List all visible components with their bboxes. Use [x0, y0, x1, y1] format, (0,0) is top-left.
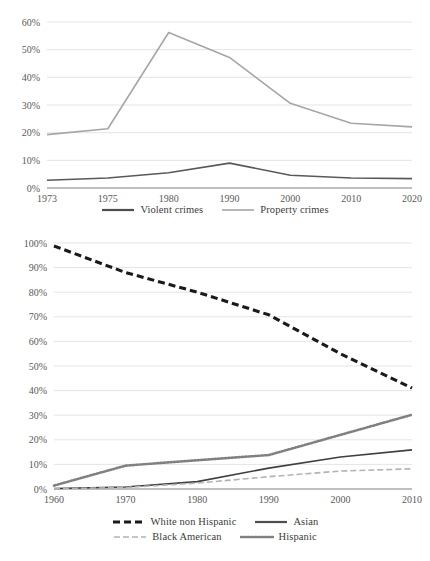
legend-swatch-icon — [221, 205, 255, 215]
x-axis-tick-label: 1960 — [44, 494, 64, 505]
y-axis-tick-label: 70% — [29, 311, 47, 322]
x-axis-tick-label: 1980 — [187, 494, 207, 505]
y-axis-tick-label: 10% — [29, 459, 47, 470]
demographics-plot: 0%10%20%30%40%50%60%70%80%90%100%1960197… — [0, 228, 430, 516]
demographics-legend: White non HispanicAsian Black AmericanHi… — [0, 514, 430, 544]
figure-page: 0%10%20%30%40%50%60%19731975198019902000… — [0, 0, 430, 561]
crime-rates-chart: 0%10%20%30%40%50%60%19731975198019902000… — [0, 0, 430, 230]
series-line — [47, 33, 412, 135]
y-axis-tick-label: 60% — [22, 17, 40, 28]
legend-label: Black American — [152, 529, 221, 544]
legend-label: Asian — [293, 514, 318, 529]
legend-swatch-icon — [112, 517, 146, 527]
y-axis-tick-label: 80% — [29, 287, 47, 298]
legend-item[interactable]: White non Hispanic — [112, 514, 237, 529]
y-axis-tick-label: 20% — [29, 434, 47, 445]
y-axis-tick-label: 10% — [22, 155, 40, 166]
legend-swatch-icon — [240, 532, 274, 542]
x-axis-tick-label: 1990 — [259, 494, 279, 505]
y-axis-tick-label: 30% — [22, 100, 40, 111]
crime-rates-legend: Violent crimesProperty crimes — [0, 202, 430, 217]
legend-item[interactable]: Asian — [254, 514, 318, 529]
legend-label: Hispanic — [279, 529, 317, 544]
y-axis-tick-label: 100% — [24, 238, 47, 249]
legend-swatch-icon — [113, 532, 147, 542]
x-axis-tick-label: 2010 — [402, 494, 422, 505]
x-axis-tick-label: 2000 — [330, 494, 350, 505]
legend-swatch-icon — [254, 517, 288, 527]
y-axis-tick-label: 50% — [29, 361, 47, 372]
legend-item[interactable]: Violent crimes — [101, 202, 203, 217]
x-axis-tick-label: 1970 — [116, 494, 136, 505]
legend-swatch-icon — [101, 205, 135, 215]
y-axis-tick-label: 30% — [29, 410, 47, 421]
legend-label: Property crimes — [260, 202, 328, 217]
y-axis-tick-label: 50% — [22, 44, 40, 55]
legend-item[interactable]: Hispanic — [240, 529, 317, 544]
y-axis-tick-label: 90% — [29, 262, 47, 273]
y-axis-tick-label: 60% — [29, 336, 47, 347]
legend-row: White non HispanicAsian — [0, 514, 430, 529]
legend-row: Black AmericanHispanic — [0, 529, 430, 544]
legend-item[interactable]: Black American — [113, 529, 221, 544]
y-axis-tick-label: 40% — [29, 385, 47, 396]
legend-row: Violent crimesProperty crimes — [0, 202, 430, 217]
series-line — [54, 450, 412, 489]
y-axis-tick-label: 40% — [22, 72, 40, 83]
demographics-chart: 0%10%20%30%40%50%60%70%80%90%100%1960197… — [0, 228, 430, 561]
legend-label: Violent crimes — [140, 202, 203, 217]
legend-item[interactable]: Property crimes — [221, 202, 328, 217]
y-axis-tick-label: 20% — [22, 127, 40, 138]
crime-rates-plot: 0%10%20%30%40%50%60%19731975198019902000… — [0, 0, 430, 205]
legend-label: White non Hispanic — [151, 514, 237, 529]
series-line — [47, 163, 412, 180]
